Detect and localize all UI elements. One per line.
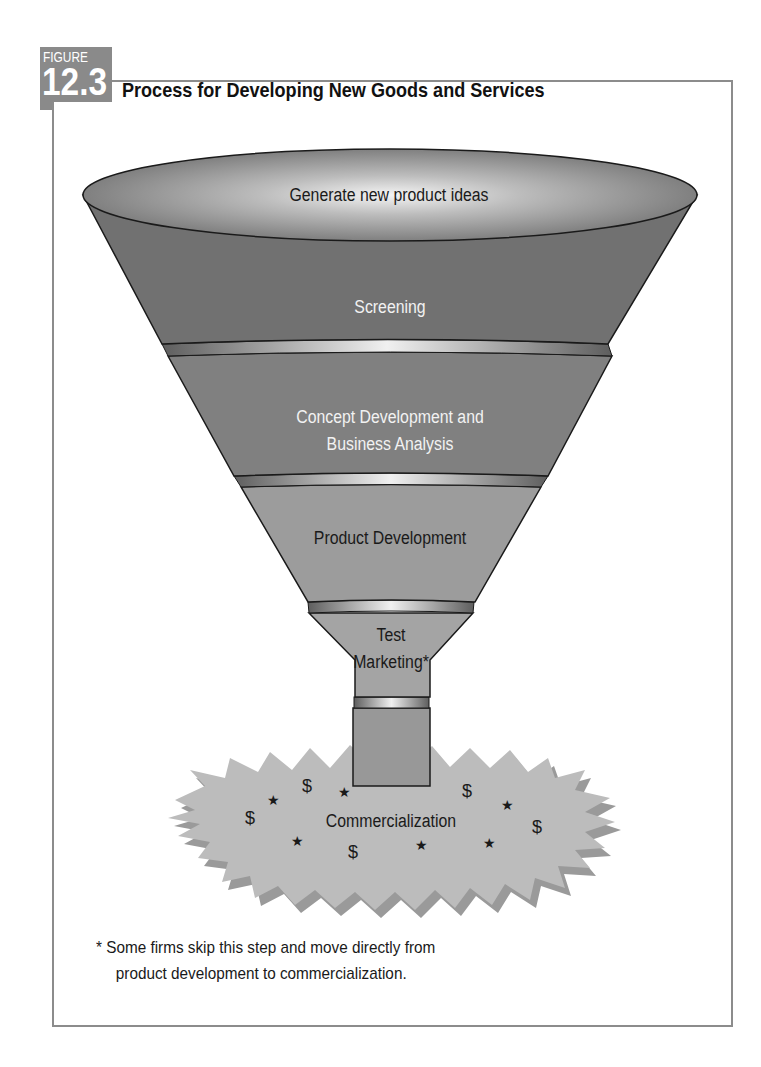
funnel-band-3 [308,600,474,613]
star-icon: ★ [501,798,514,812]
star-icon: ★ [291,834,304,848]
star-icon: ★ [338,785,351,799]
stage-label-ideas: Generate new product ideas [289,183,488,207]
stage-label-concept-line1: Concept Development and [296,405,484,429]
funnel-band-4 [354,697,429,708]
star-icon: ★ [483,836,496,850]
stage-label-product-development: Product Development [314,526,466,550]
stage-label-concept-line2: Business Analysis [327,432,454,456]
dollar-icon: $ [348,843,358,861]
funnel-stub [353,708,430,786]
star-icon: ★ [415,838,428,852]
stage-label-screening: Screening [354,295,425,319]
stage-label-test-line2: Marketing* [353,650,429,674]
dollar-icon: $ [532,818,542,836]
dollar-icon: $ [245,809,255,827]
stage-label-commercialization: Commercialization [326,809,456,833]
stage-label-test-line1: Test [376,623,405,647]
dollar-icon: $ [462,782,472,800]
footnote-line-1: * Some firms skip this step and move dir… [96,935,510,961]
dollar-icon: $ [302,777,312,795]
footnote: * Some firms skip this step and move dir… [96,935,556,987]
footnote-line-2: product development to commercialization… [96,961,510,987]
star-icon: ★ [267,793,280,807]
